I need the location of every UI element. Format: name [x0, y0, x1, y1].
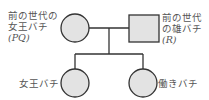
- queen-label: 女王バチ: [19, 78, 59, 89]
- prev-male-label-line1: 前の世代: [162, 12, 202, 23]
- prev-queen-label-line2: 女王バチ: [8, 21, 58, 32]
- prev-male-label: 前の世代 の雄バチ (R): [162, 12, 202, 45]
- prev-male-label-symbol: (R): [162, 34, 202, 45]
- queen-circle: [61, 69, 89, 97]
- prev-male-label-line2: の雄バチ: [162, 23, 202, 34]
- prev-queen-label-line1: 前の世代の: [8, 10, 58, 21]
- prev-queen-label-symbol: (PQ): [8, 32, 58, 43]
- worker-label: 働きバチ: [158, 78, 198, 89]
- prev-queen-label: 前の世代の 女王バチ (PQ): [8, 10, 58, 43]
- prev-male-square: [129, 15, 159, 42]
- prev-queen-circle: [61, 14, 89, 42]
- worker-circle: [129, 69, 157, 97]
